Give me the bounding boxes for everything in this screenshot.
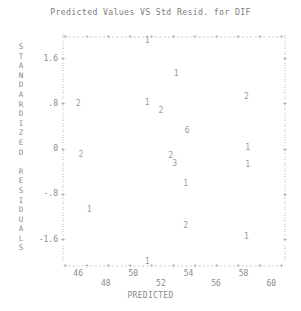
y-axis-tick-label: -.8	[24, 190, 58, 198]
y-axis-label-letter: A	[15, 224, 27, 234]
axis-tick-mark: +	[60, 236, 66, 243]
data-point: 2	[157, 107, 164, 115]
axis-tick-mark: +	[60, 100, 66, 107]
y-axis-tick-label: 0	[24, 145, 58, 153]
data-point: 1	[182, 180, 189, 188]
data-point: 1	[244, 144, 251, 152]
y-axis-label-letter: Z	[15, 128, 27, 138]
axis-tick-mark: +	[282, 100, 288, 107]
plot-frame-bottom: +----+----+----+----+----+----+----+----…	[63, 262, 285, 269]
data-point: 1	[144, 99, 151, 107]
y-axis-tick-label: 1.6	[24, 55, 58, 63]
data-point: 1	[244, 161, 251, 169]
chart-title: Predicted Values VS Std Resid. for DIF	[0, 7, 301, 17]
data-point: 1	[144, 37, 151, 45]
y-axis-label-letter: A	[15, 90, 27, 100]
y-axis-label-letter: D	[15, 109, 27, 119]
y-axis-label-letter: S	[15, 243, 27, 253]
axis-tick-mark: +	[60, 55, 66, 62]
y-axis-label-letter	[15, 157, 27, 167]
y-axis-label-letter: A	[15, 61, 27, 71]
x-axis-tick-label: 50	[125, 270, 141, 278]
axis-tick-mark: +	[282, 191, 288, 198]
axis-tick-mark: +	[60, 191, 66, 198]
data-point: 1	[173, 70, 180, 78]
data-point: 1	[86, 206, 93, 214]
axis-tick-mark: +	[282, 236, 288, 243]
x-axis-tick-label: 54	[180, 270, 196, 278]
x-axis-tick-label: 60	[263, 280, 279, 288]
plot-area: +----+----+----+----+----+----+----+----…	[63, 36, 285, 265]
axis-tick-mark: +	[60, 146, 66, 153]
axis-tick-mark: +	[282, 146, 288, 153]
y-axis-label-letter: U	[15, 215, 27, 225]
y-axis-tick-label: -1.6	[24, 236, 58, 244]
y-axis-label-letter: D	[15, 205, 27, 215]
y-axis-label-letter: E	[15, 176, 27, 186]
y-axis-label-letter: I	[15, 119, 27, 129]
scatter-plot-figure: Predicted Values VS Std Resid. for DIF S…	[0, 0, 301, 311]
y-axis-tick-label: .8	[24, 100, 58, 108]
data-point: 1	[243, 233, 250, 241]
x-axis-tick-label: 52	[153, 280, 169, 288]
data-point: 2	[182, 222, 189, 230]
plot-frame-top: +----+----+----+----+----+----+----+----…	[63, 33, 285, 40]
y-axis-label-letter: D	[15, 80, 27, 90]
data-point: 2	[77, 151, 84, 159]
y-axis-label-letter: S	[15, 42, 27, 52]
data-point: 6	[184, 127, 191, 135]
data-point: 2	[75, 100, 82, 108]
x-axis-tick-label: 58	[236, 270, 252, 278]
y-axis-label-letter: N	[15, 71, 27, 81]
axis-tick-mark: +	[282, 55, 288, 62]
data-point: 3	[171, 160, 178, 168]
x-axis-tick-label: 48	[98, 280, 114, 288]
data-point: 1	[144, 258, 151, 266]
plot-frame-left: ::::::::::::::::::::::::::::::::::::::::…	[60, 34, 66, 266]
x-axis-tick-label: 56	[208, 280, 224, 288]
data-point: 2	[243, 93, 250, 101]
x-axis-tick-label: 46	[70, 270, 86, 278]
plot-frame-right: ::::::::::::::::::::::::::::::::::::::::…	[282, 34, 288, 266]
y-axis-label-letter: R	[15, 167, 27, 177]
x-axis-label: PREDICTED	[0, 291, 301, 300]
